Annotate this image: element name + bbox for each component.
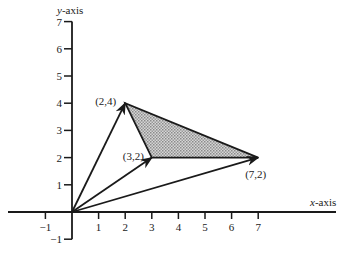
y-tick-label: 6 — [57, 43, 63, 55]
x-tick-label: 3 — [149, 221, 155, 233]
x-axis-title-rest: -axis — [315, 196, 336, 208]
x-tick-label: 2 — [122, 221, 128, 233]
y-tick-label: 7 — [57, 16, 63, 28]
vector-arrow — [72, 103, 125, 212]
point-label: (3,2) — [123, 150, 144, 163]
y-tick-label: 1 — [57, 179, 63, 191]
x-axis-title: x-axis — [309, 196, 336, 208]
x-tick-label: 7 — [255, 221, 261, 233]
y-tick-label: 4 — [57, 97, 63, 109]
y-tick-label: 3 — [57, 124, 63, 136]
x-tick-label: 4 — [176, 221, 182, 233]
x-tick-label: 1 — [96, 221, 102, 233]
x-tick-label: 6 — [229, 221, 235, 233]
vector-arrow — [72, 158, 258, 212]
y-tick-label: 2 — [57, 152, 63, 164]
point-label: (7,2) — [245, 168, 266, 181]
y-axis-title: y-axis — [56, 4, 83, 16]
x-tick-label: −1 — [40, 221, 52, 233]
coordinate-plane: −11234567 −11234567 (2,4)(3,2)(7,2) x-ax… — [0, 0, 345, 255]
x-tick-label: 5 — [202, 221, 208, 233]
y-axis-title-rest: -axis — [62, 4, 83, 16]
shaded-triangle — [125, 103, 258, 157]
vector-arrow — [72, 158, 152, 212]
y-axis-ticks: −11234567 — [50, 16, 72, 246]
point-label: (2,4) — [95, 95, 116, 108]
y-tick-label: −1 — [50, 233, 62, 245]
y-tick-label: 5 — [57, 70, 63, 82]
